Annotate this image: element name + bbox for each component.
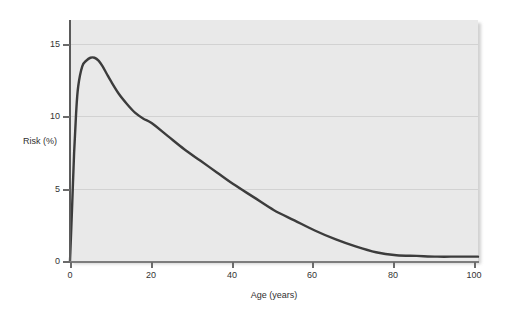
y-axis-line (69, 20, 71, 262)
risk-curve (70, 20, 478, 261)
x-tick-60 (312, 262, 314, 268)
x-tick-80 (393, 262, 395, 268)
x-tick-label-40: 40 (212, 270, 252, 280)
x-axis-title: Age (years) (0, 290, 506, 300)
y-tick-0 (63, 261, 70, 263)
risk-by-age-chart: 15 10 5 0 0 20 40 60 80 100 Risk (%) Age… (0, 0, 506, 318)
x-tick-label-0: 0 (50, 270, 90, 280)
y-axis-title: Risk (%) (23, 136, 57, 146)
y-tick-5 (63, 189, 70, 191)
x-tick-20 (151, 262, 153, 268)
x-tick-label-20: 20 (131, 270, 171, 280)
y-tick-label-0: 0 (20, 256, 60, 266)
y-tick-15 (63, 44, 70, 46)
y-tick-label-5: 5 (20, 184, 60, 194)
x-tick-label-100: 100 (454, 270, 494, 280)
y-tick-label-10: 10 (20, 111, 60, 121)
x-tick-0 (70, 262, 72, 268)
y-tick-label-15: 15 (20, 39, 60, 49)
x-axis-line (69, 261, 479, 263)
x-tick-label-60: 60 (292, 270, 332, 280)
x-tick-label-80: 80 (373, 270, 413, 280)
y-tick-10 (63, 116, 70, 118)
x-axis-title-text: Age (years) (251, 290, 298, 300)
x-tick-40 (232, 262, 234, 268)
risk-curve-path (70, 57, 478, 261)
x-tick-100 (474, 262, 476, 268)
